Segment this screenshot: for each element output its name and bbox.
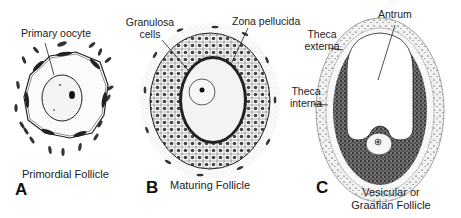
label-theca-externa: Theca externa [300,28,344,52]
label-granulosa-line2: cells [124,28,176,40]
label-theca-externa-line2: externa [300,40,344,52]
panel-letter-b: B [146,179,158,197]
label-antrum: Antrum [378,8,412,20]
caption-graafian-line1: Vesicular or [346,186,436,199]
maturing-follicle-drawing [140,23,280,179]
panel-letter-c: C [316,179,328,197]
caption-maturing-follicle: Maturing Follicle [170,179,250,192]
label-granulosa-line1: Granulosa [124,16,176,28]
label-theca-externa-line1: Theca [300,28,344,40]
label-primary-oocyte: Primary oocyte [21,27,91,39]
primordial-follicle-drawing [14,40,114,156]
label-theca-interna-line2: interna [288,97,324,109]
caption-graafian-line2: Graafian Follicle [346,199,436,212]
label-theca-interna: Theca interna [288,85,324,109]
label-zona-pellucida: Zona pellucida [232,15,300,27]
label-theca-interna-line1: Theca [288,85,324,97]
caption-primordial-follicle: Primordial Follicle [22,168,109,181]
follicle-development-figure: Primary oocyte Granulosa cells Zona pell… [0,0,461,218]
caption-graafian-follicle: Vesicular or Graafian Follicle [346,186,436,212]
panel-letter-a: A [15,181,27,199]
label-granulosa-cells: Granulosa cells [124,16,176,40]
